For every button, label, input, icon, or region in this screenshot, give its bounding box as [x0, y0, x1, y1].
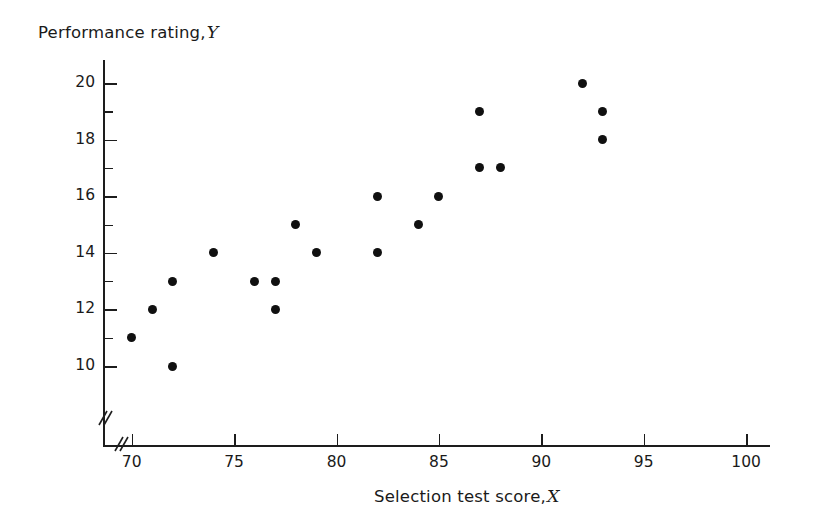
- data-point: [168, 277, 177, 286]
- data-point: [209, 248, 218, 257]
- data-point: [434, 192, 443, 201]
- y-axis-tick: [105, 196, 117, 198]
- x-axis-tick: [234, 434, 236, 445]
- y-axis-tick: [105, 309, 117, 311]
- data-point: [271, 277, 280, 286]
- data-point: [373, 248, 382, 257]
- data-point: [312, 248, 321, 257]
- x-axis-tick-label: 75: [204, 453, 264, 471]
- y-axis-minor-tick: [105, 168, 113, 169]
- y-axis-tick: [105, 140, 117, 142]
- x-axis-break-mark: [106, 430, 134, 458]
- x-axis-tick: [644, 434, 646, 445]
- data-point: [414, 220, 423, 229]
- data-point: [578, 79, 587, 88]
- data-point: [148, 305, 157, 314]
- x-axis-tick: [541, 434, 543, 445]
- y-axis-tick: [105, 83, 117, 85]
- x-axis-tick: [337, 434, 339, 445]
- x-axis-tick: [746, 434, 748, 445]
- x-axis-line: [103, 445, 770, 447]
- data-point: [496, 163, 505, 172]
- data-point: [168, 362, 177, 371]
- x-axis-tick-label: 90: [511, 453, 571, 471]
- y-axis-break-mark: [90, 404, 118, 432]
- data-point: [475, 163, 484, 172]
- x-axis-tick-label: 80: [307, 453, 367, 471]
- data-point: [250, 277, 259, 286]
- y-axis-tick-label: 14: [31, 243, 95, 261]
- x-axis-tick-label: 100: [716, 453, 776, 471]
- y-axis-tick-label: 18: [31, 130, 95, 148]
- data-point: [598, 107, 607, 116]
- data-point: [598, 135, 607, 144]
- y-axis-minor-tick: [105, 281, 113, 282]
- y-axis-minor-tick: [105, 225, 113, 226]
- y-axis-minor-tick: [105, 111, 113, 112]
- data-point: [373, 192, 382, 201]
- y-axis-minor-tick: [105, 338, 113, 339]
- y-axis-tick: [105, 253, 117, 255]
- y-axis-tick-label: 20: [31, 73, 95, 91]
- y-axis-tick-label: 10: [31, 356, 95, 374]
- y-axis-tick-label: 12: [31, 299, 95, 317]
- y-axis-tick-label: 16: [31, 186, 95, 204]
- x-axis-tick-label: 85: [409, 453, 469, 471]
- x-axis-tick: [439, 434, 441, 445]
- plot-area: 707580859095100101214161820: [0, 0, 823, 530]
- data-point: [127, 333, 136, 342]
- data-point: [271, 305, 280, 314]
- scatter-plot-figure: Performance rating,Y Selection test scor…: [0, 0, 823, 530]
- data-point: [291, 220, 300, 229]
- y-axis-tick: [105, 366, 117, 368]
- x-axis-tick-label: 95: [614, 453, 674, 471]
- data-point: [475, 107, 484, 116]
